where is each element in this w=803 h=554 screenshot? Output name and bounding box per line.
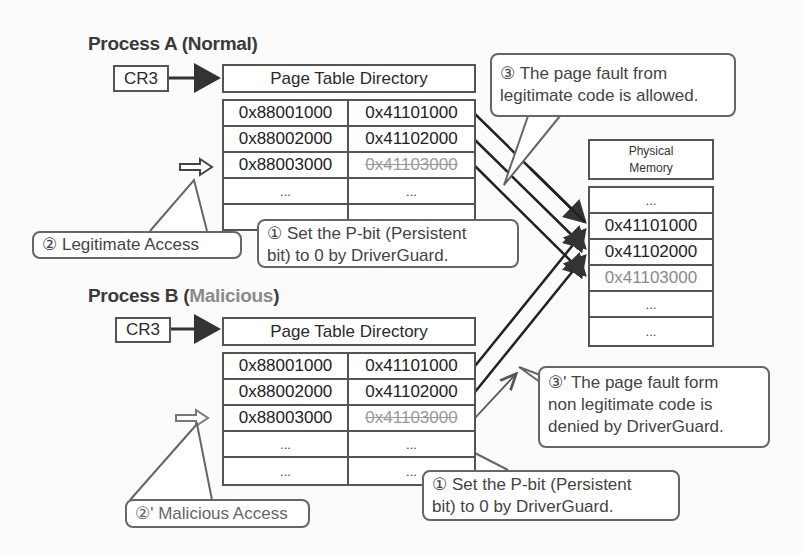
- process-a-title: Process A (Normal): [88, 33, 258, 55]
- physical-memory-header: Physical Memory: [588, 139, 714, 180]
- pbit-callout-line1: ① Set the P-bit (Persistent: [267, 223, 509, 245]
- pt-physical-cell-struck: 0x41103000: [349, 153, 474, 179]
- pt-virtual-cell: 0x88001000: [224, 101, 349, 127]
- memory-row: ...: [590, 188, 712, 214]
- fault-allowed-line2: legitimate code is allowed.: [500, 85, 726, 107]
- memory-row: 0x41101000: [590, 214, 712, 240]
- fault-denied-line2: non legitimate code is: [548, 394, 760, 416]
- fault-denied-line3: denied by DriverGuard.: [548, 416, 760, 438]
- process-b-title-prefix: Process B (: [88, 285, 189, 306]
- pt-virtual-cell: 0x88001000: [224, 354, 349, 380]
- physical-memory-table: ... 0x41101000 0x41102000 0x41103000 ...…: [588, 186, 714, 347]
- memory-row-faded: 0x41103000: [590, 266, 712, 292]
- memory-row: 0x41102000: [590, 240, 712, 266]
- fault-allowed-callout: ③ The page fault from legitimate code is…: [490, 53, 736, 117]
- pbit-callout-line2: bit) to 0 by DriverGuard.: [267, 245, 509, 267]
- process-a-title-suffix: ): [252, 33, 258, 54]
- process-a-pbit-callout: ① Set the P-bit (Persistent bit) to 0 by…: [257, 219, 519, 268]
- physical-memory-label-2: Memory: [629, 160, 672, 177]
- pt-virtual-cell: 0x88003000: [224, 406, 349, 432]
- malicious-access-text: ②' Malicious Access: [135, 504, 288, 523]
- memory-row: ...: [590, 292, 712, 318]
- process-b-page-table: 0x88001000 0x41101000 0x88002000 0x41102…: [222, 352, 476, 486]
- ptd-label: Page Table Directory: [270, 69, 428, 89]
- pt-virtual-cell: ...: [224, 432, 349, 458]
- process-a-title-prefix: Process A (: [88, 33, 188, 54]
- pt-physical-cell: 0x41102000: [349, 127, 474, 153]
- pt-virtual-cell: 0x88002000: [224, 127, 349, 153]
- process-b-page-table-directory: Page Table Directory: [222, 317, 476, 346]
- pbit-callout-line1: ① Set the P-bit (Persistent: [432, 474, 670, 496]
- process-a-page-table-directory: Page Table Directory: [222, 64, 476, 93]
- malicious-access-callout: ②' Malicious Access: [125, 499, 310, 528]
- process-a-title-kind: Normal: [188, 33, 252, 54]
- cr3-label: CR3: [126, 320, 160, 340]
- process-b-pbit-callout: ① Set the P-bit (Persistent bit) to 0 by…: [422, 470, 680, 521]
- fault-denied-line1: ③' The page fault form: [548, 372, 760, 394]
- pt-physical-cell: 0x41101000: [349, 354, 474, 380]
- process-a-cr3-box: CR3: [113, 65, 169, 92]
- ptd-label: Page Table Directory: [270, 322, 428, 342]
- pbit-callout-line2: bit) to 0 by DriverGuard.: [432, 496, 670, 518]
- pt-virtual-cell: ...: [224, 179, 349, 205]
- pt-virtual-cell: 0x88002000: [224, 380, 349, 406]
- memory-row: ...: [590, 318, 712, 344]
- fault-allowed-line1: ③ The page fault from: [500, 63, 726, 85]
- pt-virtual-cell: ...: [224, 458, 349, 484]
- process-b-title-suffix: ): [273, 285, 279, 306]
- pt-virtual-cell: 0x88003000: [224, 153, 349, 179]
- cr3-label: CR3: [124, 69, 158, 89]
- legitimate-access-callout: ② Legitimate Access: [32, 231, 242, 259]
- pt-physical-cell: 0x41102000: [349, 380, 474, 406]
- driverguard-diagram: Process A (Normal) CR3 Page Table Direct…: [0, 0, 803, 554]
- pt-physical-cell: ...: [349, 179, 474, 205]
- process-b-title-kind: Malicious: [189, 285, 273, 306]
- legitimate-access-text: ② Legitimate Access: [42, 235, 199, 254]
- process-b-cr3-box: CR3: [115, 317, 171, 343]
- process-b-title: Process B (Malicious): [88, 285, 279, 307]
- pt-physical-cell: ...: [349, 432, 474, 458]
- fault-denied-callout: ③' The page fault form non legitimate co…: [538, 366, 770, 448]
- process-a-page-table: 0x88001000 0x41101000 0x88002000 0x41102…: [222, 99, 476, 231]
- pt-physical-cell-struck: 0x41103000: [349, 406, 474, 432]
- pt-physical-cell: 0x41101000: [349, 101, 474, 127]
- physical-memory-label-1: Physical: [629, 143, 674, 160]
